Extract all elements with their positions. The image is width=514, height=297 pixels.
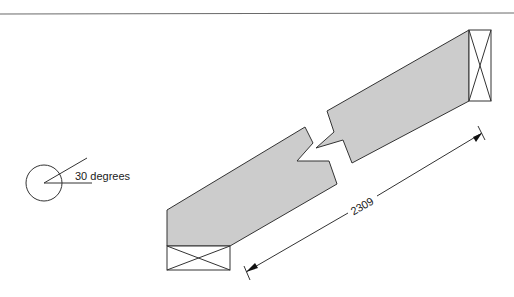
diagram-canvas: 30 degrees 2309	[0, 0, 514, 297]
dimension-label: 2309	[348, 195, 375, 218]
top-rule	[0, 13, 514, 14]
support-box-right	[469, 30, 491, 101]
beam-right-piece	[316, 30, 469, 163]
dimension-tick-left	[244, 266, 250, 280]
angle-indicator: 30 degrees	[26, 158, 131, 201]
beam-left-piece	[167, 127, 337, 246]
angle-label: 30 degrees	[75, 170, 131, 182]
dimension-arrow-right	[473, 133, 482, 142]
dimension-tick-right	[478, 126, 485, 140]
support-box-left	[167, 246, 230, 270]
dimension-arrow-left	[246, 263, 258, 272]
